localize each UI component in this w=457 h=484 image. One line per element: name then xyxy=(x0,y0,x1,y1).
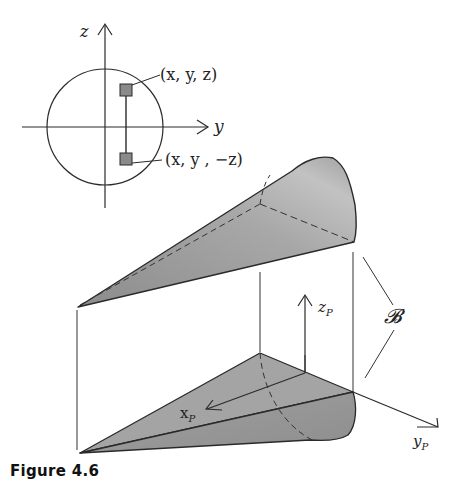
lower-point-marker xyxy=(120,153,132,165)
region-brace-upper xyxy=(363,257,393,305)
inset-z-label: z xyxy=(79,22,89,41)
upper-leader-line xyxy=(132,75,160,85)
lower-solid xyxy=(80,353,356,453)
inset-y-label: y xyxy=(213,116,224,136)
figure-canvas: z y (x, y, z) (x, y , −z) 𝓑 z xyxy=(0,0,457,484)
yp-label: yP xyxy=(412,432,428,452)
figure-caption: Figure 4.6 xyxy=(10,462,99,480)
lower-point-label: (x, y , −z) xyxy=(165,150,243,169)
upper-point-marker xyxy=(120,84,132,96)
inset-diagram: z y (x, y, z) (x, y , −z) xyxy=(22,22,243,208)
lower-leader-line xyxy=(132,160,162,163)
upper-solid xyxy=(78,157,356,307)
region-label: 𝓑 xyxy=(384,304,406,328)
upper-cone-body xyxy=(78,157,356,307)
zp-label: zP xyxy=(317,298,333,318)
upper-point-label: (x, y, z) xyxy=(160,65,217,84)
yp-axis xyxy=(353,392,438,427)
region-brace-lower xyxy=(365,330,394,378)
